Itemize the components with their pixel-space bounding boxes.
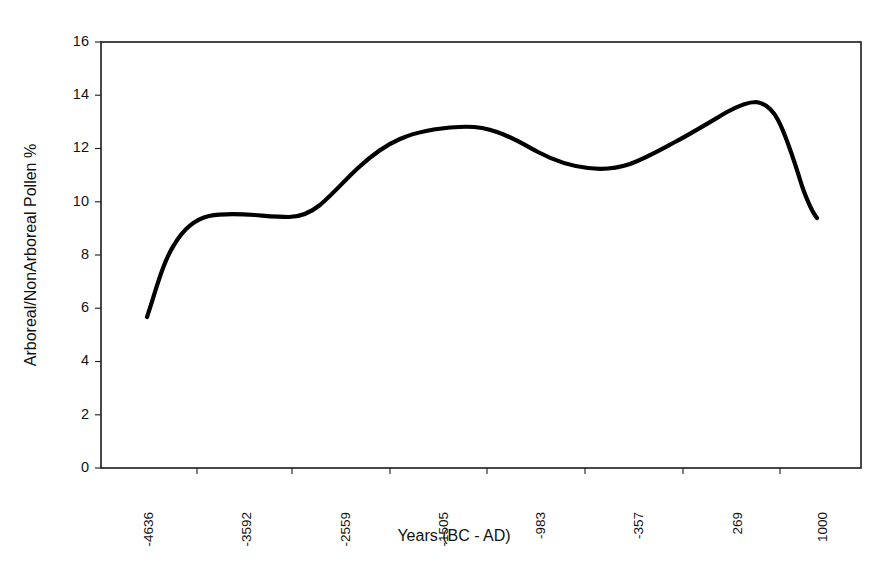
x-tick-label: -2559 — [338, 512, 353, 547]
x-tick-label: -983 — [533, 512, 548, 539]
x-axis-title: Years (BC - AD) — [397, 527, 510, 544]
screenshot-page: 0 2 4 6 8 10 12 14 16 — [0, 0, 889, 570]
y-tick-label: 0 — [81, 459, 89, 475]
y-tick-label: 4 — [81, 352, 89, 368]
y-tick-label: 10 — [73, 193, 89, 209]
y-tick-label: 12 — [73, 139, 89, 155]
y-tick-label: 14 — [73, 86, 89, 102]
y-tick-label: 2 — [81, 406, 89, 422]
y-axis-title: Arboreal/NonArboreal Pollen % — [22, 144, 39, 366]
x-tick-label: 1000 — [815, 512, 830, 542]
y-tick-label: 16 — [73, 33, 89, 49]
x-tick-label: -4636 — [141, 512, 156, 547]
y-tick-label: 8 — [81, 246, 89, 262]
y-tick-label: 6 — [81, 299, 89, 315]
chart-svg: 0 2 4 6 8 10 12 14 16 — [0, 0, 889, 570]
x-tick-label: 269 — [730, 512, 745, 535]
x-tick-label: -357 — [631, 512, 646, 539]
chart-background — [0, 0, 889, 570]
pollen-line-chart: 0 2 4 6 8 10 12 14 16 — [0, 0, 889, 570]
x-tick-label: -3592 — [239, 512, 254, 547]
